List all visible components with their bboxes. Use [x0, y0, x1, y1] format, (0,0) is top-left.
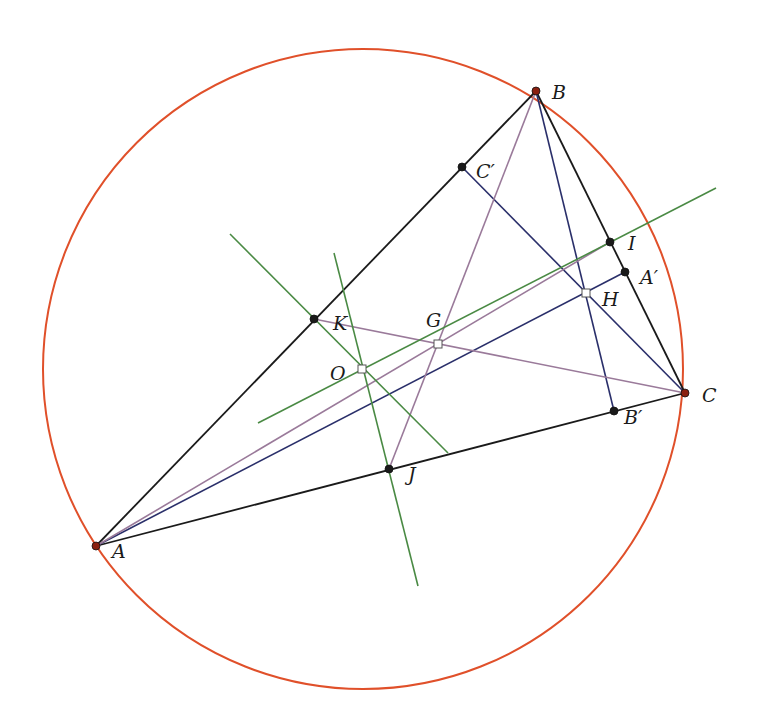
- label-bp: B′: [623, 406, 643, 428]
- altitude-a: [96, 272, 625, 546]
- median-c: [314, 319, 685, 393]
- point-cp: [458, 163, 466, 171]
- median-a: [96, 242, 610, 546]
- label-k: K: [332, 312, 349, 334]
- altitude-b: [536, 91, 614, 411]
- label-b: B: [551, 81, 566, 103]
- point-b: [532, 87, 540, 95]
- label-i: I: [627, 232, 636, 254]
- point-i: [606, 238, 614, 246]
- label-cp: C′: [476, 160, 496, 182]
- labels-group: ABCC′A′B′HGOKJI: [110, 81, 717, 562]
- label-ap: A′: [638, 266, 659, 288]
- euler-line: [258, 188, 716, 423]
- label-o: O: [330, 362, 346, 384]
- point-k: [310, 315, 318, 323]
- perp-bisector-ca: [334, 253, 418, 586]
- segments-group: [96, 91, 716, 586]
- point-a: [92, 542, 100, 550]
- point-g: [434, 340, 442, 348]
- label-c: C: [702, 384, 717, 406]
- euler-line-diagram: ABCC′A′B′HGOKJI: [0, 0, 757, 724]
- points-group: [92, 87, 689, 550]
- label-h: H: [601, 288, 619, 310]
- point-c: [681, 389, 689, 397]
- point-o: [358, 365, 366, 373]
- point-bp: [610, 407, 618, 415]
- label-a: A: [110, 540, 126, 562]
- point-ap: [621, 268, 629, 276]
- point-h: [582, 289, 590, 297]
- point-j: [385, 465, 393, 473]
- label-g: G: [426, 309, 441, 331]
- median-b: [389, 91, 536, 469]
